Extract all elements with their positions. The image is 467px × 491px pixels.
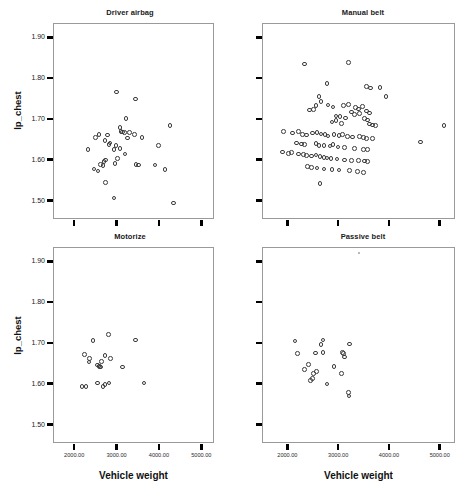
data-point	[325, 81, 330, 86]
x-axis-tick-label: 3000.00	[95, 452, 139, 458]
x-axis-tick	[115, 444, 118, 450]
data-point	[103, 353, 108, 358]
data-point	[329, 156, 334, 161]
y-axis-tick	[47, 423, 53, 426]
data-point	[342, 355, 347, 360]
data-point	[326, 103, 331, 108]
data-point	[357, 111, 362, 116]
data-point	[352, 146, 357, 151]
x-axis-tick-label: 4000.00	[367, 452, 411, 458]
data-point	[84, 384, 89, 389]
data-point	[346, 60, 351, 65]
data-point	[296, 152, 301, 157]
y-axis-tick-label: 1.50	[7, 197, 45, 204]
data-point	[418, 140, 423, 145]
x-axis-tick	[286, 444, 289, 450]
data-point	[140, 135, 145, 140]
data-point	[106, 332, 111, 337]
data-point	[122, 130, 127, 135]
y-axis-tick-label: 1.60	[7, 380, 45, 387]
data-point	[322, 167, 327, 172]
data-point	[294, 141, 299, 146]
data-point	[310, 376, 315, 381]
data-point	[103, 180, 108, 185]
data-point	[350, 135, 355, 140]
data-point	[113, 161, 118, 166]
data-point	[347, 342, 352, 347]
data-point	[367, 111, 372, 116]
data-point	[105, 133, 110, 138]
data-point	[384, 94, 389, 99]
plot-area-passive-belt	[263, 248, 454, 442]
data-point	[345, 134, 350, 139]
plot-frame-manual-belt	[262, 23, 455, 219]
data-point	[118, 146, 123, 151]
data-point	[304, 133, 309, 138]
x-axis-tick-label: 3000.00	[316, 452, 360, 458]
data-point	[114, 90, 119, 95]
y-axis-tick	[47, 199, 53, 202]
data-point	[289, 150, 294, 155]
data-point	[95, 381, 100, 386]
data-point	[346, 102, 351, 107]
y-axis-tick	[256, 423, 262, 426]
data-point	[365, 147, 370, 152]
x-axis-tick	[73, 220, 76, 226]
data-point	[332, 132, 337, 137]
data-point	[365, 159, 370, 164]
y-axis-tick	[47, 382, 53, 385]
y-axis-tick	[256, 77, 262, 80]
y-axis-tick-label: 1.90	[7, 33, 45, 40]
x-axis-tick	[438, 220, 441, 226]
y-axis-tick-label: 1.60	[7, 156, 45, 163]
data-point	[107, 381, 112, 386]
data-point	[293, 339, 298, 344]
data-point	[364, 136, 369, 141]
data-point	[361, 170, 366, 175]
x-axis-tick	[388, 220, 391, 226]
data-point	[317, 143, 322, 148]
data-point	[132, 132, 137, 137]
y-axis-tick	[256, 199, 262, 202]
data-point	[304, 153, 309, 158]
data-point	[136, 163, 141, 168]
data-point	[347, 168, 352, 173]
data-point	[336, 145, 341, 150]
data-point	[302, 367, 307, 372]
panel-motorize: Motorize 1.901.801.701.601.50 2000.00300…	[0, 232, 233, 491]
x-axis-tick-label: 5000.00	[418, 452, 462, 458]
y-axis-tick	[47, 36, 53, 39]
data-point	[343, 116, 348, 121]
data-point	[339, 371, 344, 376]
data-point	[306, 362, 311, 367]
data-point	[112, 147, 117, 152]
data-point	[319, 99, 324, 104]
x-axis-tick	[158, 444, 161, 450]
panel-passive-belt: Passive belt 2000.003000.004000.005000.0…	[233, 232, 467, 491]
data-point	[325, 382, 330, 387]
data-point	[347, 394, 352, 399]
data-point	[337, 168, 342, 173]
y-axis-tick	[256, 260, 262, 263]
data-point	[115, 156, 120, 161]
data-point	[331, 142, 336, 147]
x-axis-tick-label: 2000.00	[52, 452, 96, 458]
data-point	[280, 150, 285, 155]
x-axis-tick	[286, 220, 289, 226]
y-axis-tick-label: 1.90	[7, 257, 45, 264]
data-point	[355, 169, 360, 174]
data-point	[342, 145, 347, 150]
panel-title-motorize: Motorize	[40, 232, 220, 241]
data-point	[96, 169, 101, 174]
data-point	[360, 104, 365, 109]
panel-title-driver-airbag: Driver airbag	[40, 8, 220, 17]
data-point	[309, 165, 314, 170]
data-point	[311, 107, 316, 112]
y-axis-tick	[47, 158, 53, 161]
x-axis-tick-label: 2000.00	[265, 452, 309, 458]
data-point	[352, 112, 357, 117]
data-point	[127, 130, 132, 135]
data-point	[330, 167, 335, 172]
data-point	[123, 152, 128, 157]
data-point	[373, 123, 378, 128]
